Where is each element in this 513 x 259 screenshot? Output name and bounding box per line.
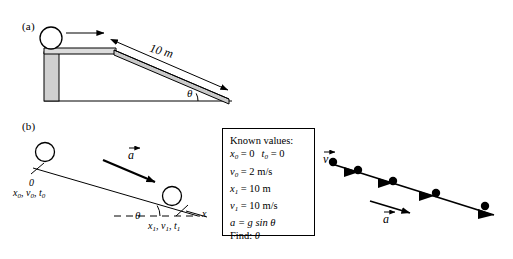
acceleration-vector-label-motion: a <box>383 212 389 227</box>
t0-subscript: 0 <box>42 192 46 200</box>
panel-a-label: (a) <box>22 20 35 32</box>
x0-subscript: 0 <box>17 192 21 200</box>
motion-dot <box>389 177 397 185</box>
motion-dot <box>432 189 440 197</box>
ball-initial <box>36 143 55 162</box>
t1-subscript: 1 <box>177 225 181 233</box>
row-v0-subscript: 0 <box>235 170 239 178</box>
final-state-label: x1, v1, t1 <box>148 220 180 233</box>
find-value: θ <box>255 230 260 241</box>
find-prefix: Find: <box>230 230 252 241</box>
physics-figure: (a) 10 m θ (b) 0 x0, v0, t0 x1, v1, t1 x… <box>0 0 513 259</box>
row-v1-value: = 10 m/s <box>241 200 278 211</box>
panel-b-label: (b) <box>22 120 35 132</box>
angle-arc-a <box>196 93 198 101</box>
known-row-a: a = g sin θ <box>230 216 314 229</box>
known-row-x1: x1 = 10 m <box>230 182 314 199</box>
x-axis-label: x <box>202 208 206 219</box>
velocity-vector-label-motion: v <box>323 152 328 167</box>
known-row-v0: v0 = 2 m/s <box>230 165 314 182</box>
panel-a-graphics <box>40 27 232 104</box>
known-row-v1: v1 = 10 m/s <box>230 199 314 216</box>
angle-theta-label-a: θ <box>187 87 192 99</box>
angle-arc-b <box>157 206 160 216</box>
ball-final <box>163 187 182 206</box>
motion-arrowhead-3 <box>419 191 434 201</box>
motion-dot <box>481 202 489 210</box>
panel-b-graphics <box>31 143 207 218</box>
row-x0-value: = 0 <box>241 148 255 159</box>
acceleration-arrow-b <box>103 160 155 182</box>
row-t0-subscript: 0 <box>265 153 269 161</box>
row-v0-value: = 2 m/s <box>241 166 273 177</box>
row-x1-value: = 10 m <box>241 183 271 194</box>
acceleration-vector-label-b: a <box>128 148 134 163</box>
initial-state-label: x0, v0, t0 <box>13 187 45 200</box>
motion-dot <box>354 166 362 174</box>
known-values-title: Known values: <box>230 134 314 147</box>
row-t0-value: = 0 <box>271 148 285 159</box>
v1-subscript: 1 <box>165 225 169 233</box>
row-a-value: = g sin θ <box>238 217 276 228</box>
ball <box>40 27 62 49</box>
angle-theta-label-b: θ <box>135 209 140 221</box>
row-a-symbol: a <box>230 217 235 228</box>
row-v1-subscript: 1 <box>235 205 239 213</box>
x1-subscript: 1 <box>152 225 156 233</box>
row-x1-subscript: 1 <box>235 187 239 195</box>
motion-diagram-graphics <box>329 158 494 219</box>
support-column <box>44 52 59 101</box>
v0-subscript: 0 <box>30 192 34 200</box>
row-x0-subscript: 0 <box>235 153 239 161</box>
motion-dot <box>329 158 337 166</box>
known-row-x0: x0 = 0t0 = 0 <box>230 147 314 164</box>
find-row: Find: θ <box>230 229 314 242</box>
known-values-box: Known values: x0 = 0t0 = 0 v0 = 2 m/s x1… <box>222 128 315 236</box>
acceleration-arrow-motion <box>370 201 410 213</box>
